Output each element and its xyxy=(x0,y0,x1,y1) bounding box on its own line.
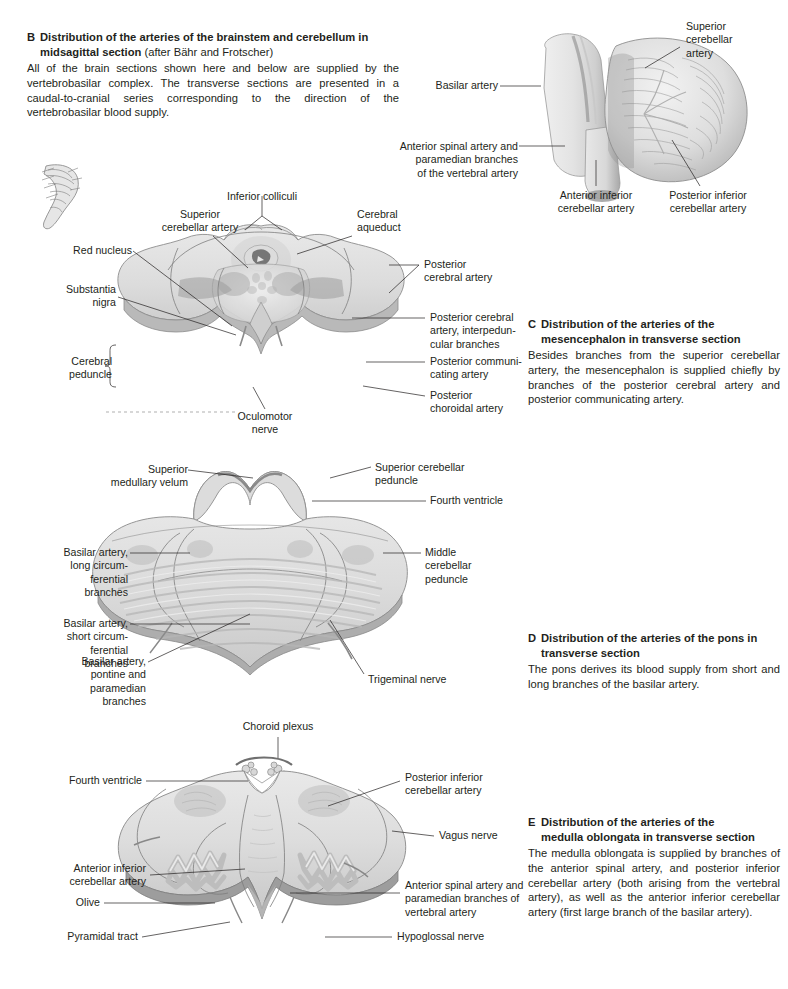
caption-e-letter: E xyxy=(528,815,541,830)
label-cerebral-peduncle: Cerebral peduncle xyxy=(36,355,112,382)
label-anterior-inferior-cerebellar-artery-e: Anterior inferior cerebellar artery xyxy=(48,862,146,889)
caption-d: DDistribution of the arteries of the pon… xyxy=(528,631,780,692)
caption-b-letter: B xyxy=(27,30,40,45)
label-superior-cerebellar-peduncle: Superior cerebellar peduncle xyxy=(375,461,465,488)
label-fourth-ventricle-d: Fourth ventricle xyxy=(430,494,503,507)
caption-e-body: The medulla oblongata is supplied by bra… xyxy=(528,846,780,920)
caption-c-letter: C xyxy=(528,317,541,332)
label-superior-cerebellar-artery-c: Superior cerebellar artery xyxy=(144,208,256,235)
figure-d-illustration xyxy=(84,463,424,683)
caption-b-heading-suffix: (after Bähr and Frotscher) xyxy=(141,46,273,58)
caption-e-heading-line2: medulla oblongata in transverse section xyxy=(528,830,780,845)
label-vagus-nerve: Vagus nerve xyxy=(439,829,498,842)
label-inferior-colliculi: Inferior colliculi xyxy=(210,190,314,203)
label-posterior-inferior-cerebellar-artery-b: Posterior inferior cerebellar artery xyxy=(652,189,764,216)
label-superior-medullary-velum: Superior medullary velum xyxy=(84,463,188,490)
caption-c-heading: CDistribution of the arteries of the mes… xyxy=(528,317,780,347)
label-basilar-artery-b: Basilar artery xyxy=(410,79,498,92)
label-choroid-plexus: Choroid plexus xyxy=(232,720,324,733)
label-oculomotor-nerve: Oculomotor nerve xyxy=(222,410,308,437)
label-middle-cerebellar-peduncle: Middle cerebellar peduncle xyxy=(425,546,472,586)
label-posterior-inferior-cerebellar-artery-e: Posterior inferior cerebellar artery xyxy=(405,771,483,798)
label-posterior-communicating-artery: Posterior communi- cating artery xyxy=(430,355,522,382)
label-hypoglossal-nerve: Hypoglossal nerve xyxy=(397,930,484,943)
label-posterior-cerebral-artery: Posterior cerebral artery xyxy=(424,258,492,285)
caption-e-heading-line1: Distribution of the arteries of the xyxy=(541,816,714,828)
caption-d-letter: D xyxy=(528,631,541,646)
label-posterior-cerebral-artery-interpeduncular: Posterior cerebral artery, interpedun- c… xyxy=(430,311,516,351)
caption-d-heading-line2: transverse section xyxy=(528,646,780,661)
caption-e: EDistribution of the arteries of the med… xyxy=(528,815,780,920)
label-anterior-spinal-artery-b: Anterior spinal artery and paramedian br… xyxy=(388,140,518,180)
label-olive: Olive xyxy=(58,896,100,909)
caption-b-heading-line1: Distribution of the arteries of the brai… xyxy=(40,31,368,43)
caption-d-heading: DDistribution of the arteries of the pon… xyxy=(528,631,780,661)
caption-b-body: All of the brain sections shown here and… xyxy=(27,61,399,121)
caption-c-heading-line2: mesencephalon in transverse section xyxy=(528,332,780,347)
label-fourth-ventricle-e: Fourth ventricle xyxy=(58,774,142,787)
caption-c-body: Besides branches from the superior cereb… xyxy=(528,348,780,408)
label-red-nucleus: Red nucleus xyxy=(52,244,132,257)
caption-b-heading: BDistribution of the arteries of the bra… xyxy=(27,30,399,60)
caption-c: CDistribution of the arteries of the mes… xyxy=(528,317,780,407)
figure-c-illustration xyxy=(106,218,416,418)
label-superior-cerebellar-artery-b: Superior cerebellar artery xyxy=(686,20,733,60)
label-cerebral-aqueduct: Cerebral aqueduct xyxy=(357,208,401,235)
figure-e-illustration xyxy=(108,745,418,950)
label-pyramidal-tract: Pyramidal tract xyxy=(38,930,138,943)
label-basilar-pontine-paramedian: Basilar artery, pontine and paramedian b… xyxy=(42,655,146,708)
caption-d-body: The pons derives its blood supply from s… xyxy=(528,662,780,692)
label-anterior-inferior-cerebellar-artery-b: Anterior inferior cerebellar artery xyxy=(542,189,650,216)
orientation-thumbnail-brainstem xyxy=(28,158,94,232)
caption-d-heading-line1: Distribution of the arteries of the pons… xyxy=(541,632,757,644)
label-posterior-choroidal-artery: Posterior choroidal artery xyxy=(430,389,503,416)
label-anterior-spinal-artery-e: Anterior spinal artery and paramedian br… xyxy=(405,879,523,919)
label-trigeminal-nerve: Trigeminal nerve xyxy=(368,673,447,686)
caption-b-heading-line2: midsagittal section xyxy=(40,46,141,58)
label-basilar-long-circumferential: Basilar artery, long circum- ferential b… xyxy=(22,546,128,599)
caption-b: BDistribution of the arteries of the bra… xyxy=(27,30,399,120)
label-substantia-nigra: Substantia nigra xyxy=(38,283,116,310)
textbook-page: BDistribution of the arteries of the bra… xyxy=(0,0,788,989)
caption-e-heading: EDistribution of the arteries of the med… xyxy=(528,815,780,845)
caption-c-heading-line1: Distribution of the arteries of the xyxy=(541,318,714,330)
